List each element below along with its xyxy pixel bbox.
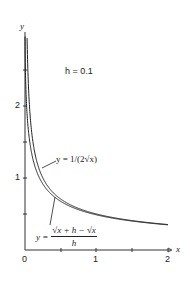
equation-lhs: y =	[36, 232, 48, 242]
fraction-denominator: h	[72, 237, 77, 248]
pointer-eq2	[50, 197, 55, 225]
x-tick-label-1: 1	[93, 255, 98, 264]
equation-derivative: y = 1/(2√x)	[56, 154, 97, 164]
equation-difference-quotient: y = √x + h − √x h	[36, 225, 97, 248]
x-tick-label-0: 0	[22, 255, 27, 264]
x-axis-label: x	[176, 245, 180, 254]
fraction-numerator: √x + h − √x	[51, 225, 97, 237]
h-annotation: h = 0.1	[65, 67, 93, 76]
figure: y x 2 1 0 1 2 h = 0.1 y = 1/(2√x) y = √x…	[0, 0, 190, 282]
pointer-eq1	[42, 161, 56, 168]
y-axis-label: y	[20, 22, 24, 31]
fraction: √x + h − √x h	[51, 225, 97, 248]
curve-difference-quotient	[25, 37, 168, 225]
curve-derivative	[27, 38, 168, 224]
y-tick-label-2: 2	[15, 101, 20, 110]
x-tick-label-2: 2	[165, 255, 170, 264]
y-tick-label-1: 1	[15, 173, 20, 182]
